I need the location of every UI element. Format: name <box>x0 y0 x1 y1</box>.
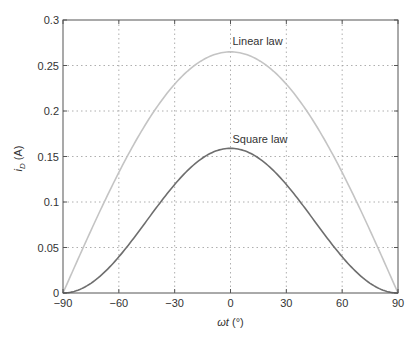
x-axis-ticks: −90−60−300306090 <box>54 20 404 309</box>
curve-label: Linear law <box>233 35 283 47</box>
y-tick-label: 0.05 <box>38 242 59 254</box>
x-axis-label: ωt (°) <box>217 316 243 328</box>
x-tick-label: −30 <box>165 297 184 309</box>
y-axis-ticks: 00.050.10.150.20.250.3 <box>38 14 398 299</box>
grid-lines <box>63 20 398 293</box>
x-tick-label: 90 <box>392 297 404 309</box>
x-tick-label: −60 <box>109 297 128 309</box>
y-axis-label: iD (A) <box>12 146 27 172</box>
curve-label: Square law <box>233 133 288 145</box>
y-tick-label: 0.15 <box>38 151 59 163</box>
y-tick-label: 0.3 <box>44 14 59 26</box>
y-tick-label: 0.25 <box>38 60 59 72</box>
x-tick-label: 60 <box>336 297 348 309</box>
y-tick-label: 0.2 <box>44 105 59 117</box>
curve-annotations: Linear lawSquare law <box>233 35 288 144</box>
series-square-law <box>63 148 398 293</box>
chart: −90−60−300306090 00.050.10.150.20.250.3 … <box>0 0 419 337</box>
y-tick-label: 0.1 <box>44 196 59 208</box>
x-tick-label: 0 <box>227 297 233 309</box>
x-tick-label: 30 <box>280 297 292 309</box>
y-tick-label: 0 <box>53 287 59 299</box>
